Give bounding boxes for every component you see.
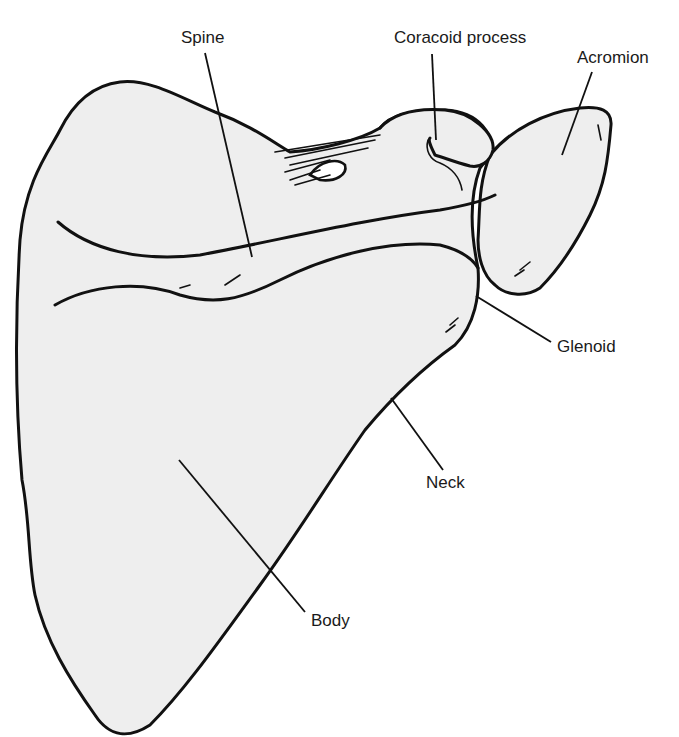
leader-neck — [391, 398, 443, 470]
leader-glenoid — [476, 296, 551, 342]
label-body: Body — [311, 612, 350, 629]
label-spine: Spine — [181, 29, 224, 46]
scapula-diagram: Spine Coracoid process Acromion Glenoid … — [0, 0, 679, 737]
acromion-outline — [478, 108, 611, 295]
label-acromion: Acromion — [577, 49, 649, 66]
label-coracoid-process: Coracoid process — [394, 29, 526, 46]
label-glenoid: Glenoid — [557, 338, 616, 355]
scapula-body-outline — [16, 82, 490, 734]
label-neck: Neck — [426, 474, 465, 491]
